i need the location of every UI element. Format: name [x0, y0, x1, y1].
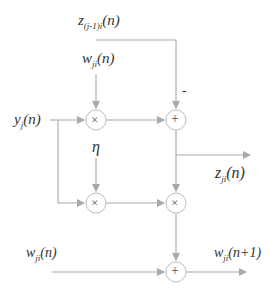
label-eta: η: [92, 139, 100, 155]
label-w-top: wji(n): [82, 51, 115, 69]
label-z-out: zji(n): [215, 165, 245, 184]
label-w-bottom: wji(n): [26, 246, 57, 263]
node-sum1-op: +: [171, 112, 179, 126]
node-mult2-op: ×: [91, 196, 98, 209]
label-z-prev: z(j-1)i(n): [78, 13, 120, 31]
node-sum2-op: +: [171, 264, 179, 278]
node-mult1-op: ×: [91, 113, 98, 126]
edge-y-mult2: [58, 120, 84, 203]
node-mult3-op: ×: [171, 196, 178, 209]
label-w-next: wji(n+1): [214, 246, 261, 263]
minus-sign: -: [182, 84, 187, 98]
label-y-in: yj(n): [14, 112, 41, 130]
